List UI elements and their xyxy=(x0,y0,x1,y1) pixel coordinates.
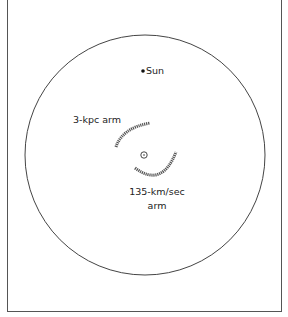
galaxy-disk-outline xyxy=(25,35,265,275)
135-km-sec-arm-label-line2: arm xyxy=(129,199,185,213)
135-km-sec-arm-label-line1: 135-km/sec xyxy=(129,185,185,199)
three-kpc-arm xyxy=(116,123,150,147)
galaxy-diagram xyxy=(0,0,288,317)
three-kpc-arm-label: 3-kpc arm xyxy=(73,115,121,125)
sun-label: Sun xyxy=(146,66,164,76)
sun-marker-icon xyxy=(141,69,145,73)
135-km-sec-arm-label: 135-km/sec arm xyxy=(129,185,185,213)
galactic-center-icon xyxy=(141,152,147,158)
